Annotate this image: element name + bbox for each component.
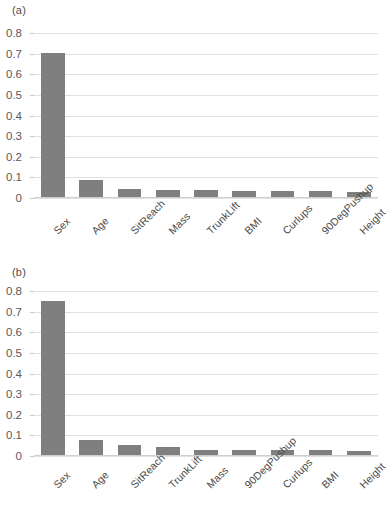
y-tick-mark [30,456,34,457]
x-tick-label: BMI [319,469,341,491]
y-tick-label: 0.7 [0,306,22,318]
bar-group-a [34,33,378,197]
x-axis-line-b [34,455,378,456]
bar-slot [187,291,225,455]
bar-slot [302,33,340,197]
bar-slot [72,33,110,197]
x-tick-label: Sex [51,215,73,237]
x-tick-label: Sex [51,469,73,491]
bar [118,189,142,197]
y-tick-label: 0.4 [0,368,22,380]
x-label-slot: TrunkLift [149,478,187,531]
x-label-slot: Curlups [263,478,301,531]
bar-slot [72,291,110,455]
chart-panel-a: (a) 00.10.20.30.40.50.60.70.8 SexAgeSitR… [0,0,386,265]
y-tick-label: 0.1 [0,429,22,441]
bar-slot [34,291,72,455]
bar [79,180,103,197]
plot-area-b: 00.10.20.30.40.50.60.70.8 SexAgeSitReach… [0,284,386,464]
y-tick-label: 0 [0,450,22,462]
bar-slot [110,33,148,197]
x-tick-label: Height [357,460,387,490]
x-label-slot: Mass [187,478,225,531]
chart-panel-b: (b) 00.10.20.30.40.50.60.70.8 SexAgeSitR… [0,262,386,531]
y-tick-label: 0 [0,192,22,204]
x-tick-label: BMI [242,215,264,237]
bar-slot [225,33,263,197]
bar-slot [187,33,225,197]
y-tick-label: 0.7 [0,48,22,60]
bar-slot [149,291,187,455]
bar-slot [225,291,263,455]
bar-slot [263,33,301,197]
bar-slot [110,291,148,455]
x-label-slot: Age [72,478,110,531]
bar-slot [34,33,72,197]
panel-a-label: (a) [12,4,26,16]
bar-slot [302,291,340,455]
x-label-slot: BMI [302,478,340,531]
x-label-slot: Sex [34,478,72,531]
x-tick-label: Age [89,469,111,491]
gridline [34,198,378,199]
bar [79,440,103,455]
bar [41,53,65,197]
y-tick-label: 0.5 [0,89,22,101]
plot-area-a: 00.10.20.30.40.50.60.70.8 SexAgeSitReach… [0,26,386,206]
bar-slot [263,291,301,455]
x-tick-label: Height [357,206,387,236]
bar-slot [149,33,187,197]
x-tick-label: Age [89,215,111,237]
axis-area-b: 00.10.20.30.40.50.60.70.8 [34,291,378,456]
bar [118,445,142,455]
bar-group-b [34,291,378,455]
x-label-slot: SitReach [110,478,148,531]
y-tick-mark [30,198,34,199]
y-tick-label: 0.2 [0,151,22,163]
bar [194,190,218,197]
y-tick-label: 0.2 [0,409,22,421]
x-axis-line-a [34,197,378,198]
bar-slot [340,33,378,197]
x-label-slot: Height [340,478,378,531]
gridline [34,456,378,457]
panel-b-label: (b) [12,266,26,278]
bar [41,301,65,455]
y-tick-label: 0.8 [0,285,22,297]
x-label-slot: 90DegPushup [225,478,263,531]
y-tick-label: 0.8 [0,27,22,39]
y-tick-label: 0.1 [0,171,22,183]
y-tick-label: 0.6 [0,326,22,338]
bar [156,190,180,197]
bar-slot [340,291,378,455]
y-tick-label: 0.6 [0,68,22,80]
x-axis-labels-b: SexAgeSitReachTrunkLiftMass90DegPushupCu… [34,478,378,531]
axis-area-a: 00.10.20.30.40.50.60.70.8 [34,33,378,198]
y-tick-label: 0.3 [0,388,22,400]
y-tick-label: 0.5 [0,347,22,359]
y-tick-label: 0.3 [0,130,22,142]
y-tick-label: 0.4 [0,110,22,122]
